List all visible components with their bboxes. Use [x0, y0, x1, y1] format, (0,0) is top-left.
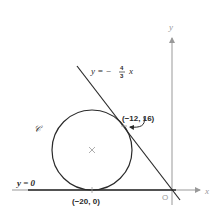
origin-label: O — [162, 193, 168, 202]
x-axis-label: x — [204, 186, 209, 196]
line-label-prefix: y = − — [90, 66, 112, 76]
line-label-denominator: 3 — [120, 73, 124, 79]
line-label-suffix: x — [128, 66, 133, 76]
circle-label: 𝒞 — [34, 124, 43, 134]
y-axis-label: y — [168, 22, 173, 32]
line-label-numerator: 4 — [120, 65, 124, 71]
baseline-label: y = 0 — [16, 178, 36, 188]
center-marker-icon — [89, 147, 95, 153]
tangent-point-label: (−12, 16) — [122, 114, 155, 123]
diagram-canvas: y x O y = − 4 3 x (−12, 16) (−20, 0) y =… — [0, 0, 224, 216]
bottom-point-label: (−20, 0) — [72, 197, 100, 206]
